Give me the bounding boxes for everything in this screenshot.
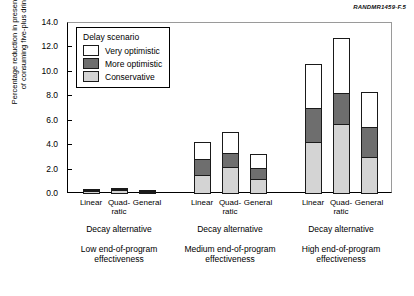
bar	[305, 64, 322, 193]
y-tick-mark	[67, 71, 72, 72]
figure-id-label: RANDMR1459-F.5	[353, 4, 406, 10]
legend-swatch-very-optimistic	[83, 45, 99, 56]
bar	[222, 132, 239, 193]
bar-segment-more	[222, 153, 239, 168]
bar-segment-very	[250, 154, 267, 169]
y-tick-mark	[67, 95, 72, 96]
legend-label-conservative: Conservative	[105, 72, 155, 82]
bar-segment-very	[361, 92, 378, 127]
legend-swatch-more-optimistic	[83, 58, 99, 69]
legend-item-very-optimistic: Very optimistic	[83, 45, 162, 56]
legend-label-very-optimistic: Very optimistic	[105, 46, 160, 56]
bar	[361, 92, 378, 193]
bar	[333, 38, 350, 193]
y-tick-label: 6.0	[18, 115, 58, 125]
y-tick-mark	[67, 46, 72, 47]
x-category-label: General	[127, 198, 167, 207]
x-category-label: General	[238, 198, 278, 207]
legend-label-more-optimistic: More optimistic	[105, 59, 162, 69]
legend: Delay scenario Very optimistic More opti…	[76, 27, 170, 88]
bar-segment-very	[305, 64, 322, 109]
bar-segment-very	[333, 38, 350, 94]
bar-segment-cons	[305, 142, 322, 194]
bar-segment-cons	[250, 179, 267, 194]
x-category-label: General	[349, 198, 389, 207]
bar	[111, 188, 128, 193]
bar	[139, 190, 156, 193]
bar-segment-very	[194, 142, 211, 160]
legend-item-more-optimistic: More optimistic	[83, 58, 162, 69]
bar-segment-more	[361, 127, 378, 159]
chart-figure: RANDMR1459-F.5 Percentage reduction in p…	[0, 0, 414, 296]
bar-segment-cons	[83, 191, 100, 194]
group-axis-label: Decay alternative	[276, 224, 406, 234]
y-tick-label: 8.0	[18, 90, 58, 100]
bar-segment-more	[333, 93, 350, 126]
bar-segment-more	[305, 108, 322, 143]
legend-swatch-conservative	[83, 71, 99, 82]
y-tick-mark	[67, 120, 72, 121]
legend-title: Delay scenario	[83, 32, 162, 42]
y-tick-label: 2.0	[18, 164, 58, 174]
bar-segment-cons	[194, 175, 211, 195]
bar-segment-more	[194, 159, 211, 176]
y-tick-label: 10.0	[18, 66, 58, 76]
bar-segment-cons	[139, 192, 156, 194]
bar	[250, 154, 267, 193]
bar-segment-cons	[361, 157, 378, 194]
y-tick-label: 0.0	[18, 188, 58, 198]
bar-segment-cons	[222, 167, 239, 194]
bar	[83, 189, 100, 193]
bar-segment-very	[222, 132, 239, 155]
y-tick-mark	[67, 169, 72, 170]
legend-item-conservative: Conservative	[83, 71, 162, 82]
group-caption: High end-of-program effectiveness	[271, 244, 411, 264]
y-tick-label: 14.0	[18, 17, 58, 27]
y-tick-label: 4.0	[18, 139, 58, 149]
bar	[194, 142, 211, 193]
y-tick-mark	[67, 144, 72, 145]
bar-segment-cons	[333, 124, 350, 194]
bar-segment-cons	[111, 190, 128, 194]
y-tick-label: 12.0	[18, 41, 58, 51]
